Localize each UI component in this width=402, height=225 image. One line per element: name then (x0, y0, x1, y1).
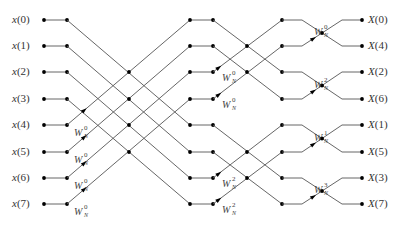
node-dot (245, 176, 249, 180)
node-dot (188, 123, 192, 127)
arrowhead-icon (310, 37, 316, 42)
node-dot (42, 97, 46, 101)
node-dot (42, 44, 46, 48)
twiddle-stage1-0: W0N (74, 128, 82, 138)
node-dot (360, 202, 364, 206)
node-dot (127, 123, 131, 127)
output-label-5: X(5) (368, 146, 388, 157)
input-label-x5: x(5) (12, 146, 30, 157)
node-dot (245, 44, 249, 48)
twiddle-stage1-1: W0N (74, 155, 82, 165)
twiddle-stage2-2: W2N (222, 179, 230, 189)
node-dot (42, 150, 46, 154)
node-dot (360, 70, 364, 74)
output-label-1: X(4) (368, 40, 388, 51)
node-dot (127, 150, 131, 154)
node-dot (360, 176, 364, 180)
twiddle-stage1-2: W0N (74, 181, 82, 191)
output-label-2: X(2) (368, 66, 388, 77)
input-label-x4: x(4) (12, 119, 30, 130)
arrowhead-icon (310, 195, 316, 200)
arrowhead-icon (215, 66, 221, 71)
node-dot (42, 176, 46, 180)
input-label-x6: x(6) (12, 172, 30, 183)
output-label-6: X(3) (368, 172, 388, 183)
arrowhead-icon (310, 143, 316, 148)
input-label-x7: x(7) (12, 198, 30, 209)
node-dot (188, 202, 192, 206)
twiddle-stage2-3: W2N (222, 205, 230, 215)
node-dot (127, 70, 131, 74)
node-dot (188, 150, 192, 154)
twiddle-stage2-0: W0N (222, 73, 230, 83)
node-dot (188, 176, 192, 180)
node-dot (245, 70, 249, 74)
output-label-0: X(0) (368, 14, 388, 25)
arrowhead-icon (215, 198, 221, 203)
output-label-4: X(1) (368, 119, 388, 130)
node-dot (360, 150, 364, 154)
output-label-3: X(6) (368, 93, 388, 104)
node-dot (360, 18, 364, 22)
twiddle-stage3-3: W3N (314, 185, 322, 195)
input-label-x0: x(0) (12, 14, 30, 25)
twiddle-stage3-1: W2N (314, 80, 322, 90)
node-dot (245, 150, 249, 154)
twiddle-stage3-2: W1N (314, 133, 322, 143)
node-dot (188, 18, 192, 22)
node-dot (188, 70, 192, 74)
butterfly-diagram (0, 0, 402, 225)
input-label-x3: x(3) (12, 93, 30, 104)
node-dot (127, 97, 131, 101)
node-dot (42, 202, 46, 206)
output-label-7: X(7) (368, 198, 388, 209)
node-dot (188, 44, 192, 48)
node-dot (42, 70, 46, 74)
input-label-x2: x(2) (12, 66, 30, 77)
node-dot (360, 123, 364, 127)
node-dot (42, 18, 46, 22)
node-dot (360, 44, 364, 48)
twiddle-stage2-1: W0N (222, 100, 230, 110)
node-dot (360, 97, 364, 101)
twiddle-stage1-3: W0N (74, 207, 82, 217)
twiddle-stage3-0: W0N (314, 27, 322, 37)
input-label-x1: x(1) (12, 40, 30, 51)
node-dot (42, 123, 46, 127)
node-dot (188, 97, 192, 101)
arrowhead-icon (310, 90, 316, 95)
